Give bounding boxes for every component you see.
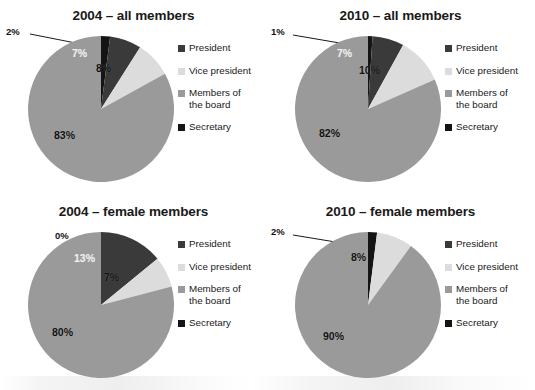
chart-title: 2004 – female members <box>0 204 267 219</box>
legend-item-secretary: Secretary <box>178 121 266 133</box>
callout-secretary-value: 1% <box>271 26 285 37</box>
legend-item-vice-president: Vice president <box>445 65 533 77</box>
pie-chart: 8% 90% <box>293 230 443 380</box>
legend-swatch-president <box>445 241 452 248</box>
legend-label-president: President <box>456 238 497 250</box>
callout-secretary: 2% <box>6 26 20 37</box>
legend-swatch-vice-president <box>445 68 452 75</box>
legend-swatch-board <box>178 90 185 97</box>
callout-secretary-value: 2% <box>6 26 20 37</box>
legend-label-president: President <box>189 238 230 250</box>
legend-item-president: President <box>445 238 533 250</box>
legend-item-secretary: Secretary <box>178 317 266 329</box>
callout-secretary: 2% <box>271 226 285 237</box>
legend-item-board: Members of the board <box>445 283 533 306</box>
legend-swatch-president <box>178 241 185 248</box>
legend-swatch-board <box>445 90 452 97</box>
chart-panel-2010-all: 2010 – all members 1% 7% 10% 82% <box>267 0 534 195</box>
legend-label-board: Members of the board <box>189 283 241 306</box>
slice-label-board: 83% <box>54 129 75 141</box>
legend-swatch-president <box>178 45 185 52</box>
pie-chart: 7% 8% 83% <box>26 34 176 184</box>
legend-label-secretary: Secretary <box>189 317 231 329</box>
slice-label-president: 13% <box>74 252 95 264</box>
chart-panel-2004-all: 2004 – all members 2% 7% <box>0 0 267 195</box>
legend-label-vice-president: Vice president <box>189 65 251 77</box>
legend-label-secretary: Secretary <box>456 317 498 329</box>
legend-label-vice-president: Vice president <box>456 261 518 273</box>
legend-label-secretary: Secretary <box>189 121 231 133</box>
legend-swatch-board <box>445 286 452 293</box>
chart-panel-2010-female: 2010 – female members 2% 8% 90% Presid <box>267 196 534 390</box>
legend-label-board: Members of the board <box>456 87 508 110</box>
legend-label-president: President <box>189 42 230 54</box>
legend-item-vice-president: Vice president <box>178 261 266 273</box>
pie-chart: 13% 7% 80% <box>26 230 176 380</box>
legend-swatch-secretary <box>178 320 185 327</box>
legend-swatch-vice-president <box>178 264 185 271</box>
legend-item-president: President <box>178 238 266 250</box>
slice-label-vice-president: 8% <box>351 251 366 263</box>
legend-swatch-vice-president <box>178 68 185 75</box>
legend-swatch-secretary <box>445 320 452 327</box>
legend-label-president: President <box>456 42 497 54</box>
pie-svg <box>26 230 176 380</box>
legend-label-board: Members of the board <box>189 87 241 110</box>
slice-label-board: 82% <box>319 127 340 139</box>
slice-label-board: 80% <box>52 326 73 338</box>
chart-title: 2010 – female members <box>267 204 534 219</box>
legend-item-secretary: Secretary <box>445 121 533 133</box>
legend-item-board: Members of the board <box>178 87 266 110</box>
legend-label-vice-president: Vice president <box>456 65 518 77</box>
legend-label-secretary: Secretary <box>456 121 498 133</box>
legend: President Vice president Members of the … <box>445 42 533 133</box>
slice-label-president: 7% <box>337 47 352 59</box>
slice-label-vice-president: 10% <box>359 64 380 76</box>
chart-panel-2004-female: 2004 – female members 0% 13% 7% 80% Pres… <box>0 196 267 390</box>
legend-item-vice-president: Vice president <box>445 261 533 273</box>
callout-secretary: 1% <box>271 26 285 37</box>
legend-item-board: Members of the board <box>445 87 533 110</box>
legend-item-president: President <box>178 42 266 54</box>
pie-chart: 7% 10% 82% <box>293 34 443 184</box>
legend-swatch-board <box>178 286 185 293</box>
legend-item-board: Members of the board <box>178 283 266 306</box>
legend-label-vice-president: Vice president <box>189 261 251 273</box>
legend: President Vice president Members of the … <box>178 238 266 329</box>
callout-secretary-value: 2% <box>271 226 285 237</box>
chart-title: 2010 – all members <box>267 8 534 23</box>
slice-label-vice-president: 7% <box>104 271 119 283</box>
pie-svg <box>26 34 176 184</box>
legend-swatch-secretary <box>445 124 452 131</box>
legend: President Vice president Members of the … <box>445 238 533 329</box>
slice-label-board: 90% <box>323 330 344 342</box>
chart-title: 2004 – all members <box>0 8 267 23</box>
figure-sheet: 2004 – all members 2% 7% <box>0 0 535 390</box>
legend-swatch-president <box>445 45 452 52</box>
slice-label-president: 7% <box>72 47 87 59</box>
legend-label-board: Members of the board <box>456 283 508 306</box>
legend-item-vice-president: Vice president <box>178 65 266 77</box>
pie-svg <box>293 34 443 184</box>
slice-label-vice-president: 8% <box>96 62 111 74</box>
legend-item-secretary: Secretary <box>445 317 533 329</box>
pie-svg <box>293 230 443 380</box>
legend-item-president: President <box>445 42 533 54</box>
legend-swatch-secretary <box>178 124 185 131</box>
legend-swatch-vice-president <box>445 264 452 271</box>
legend: President Vice president Members of the … <box>178 42 266 133</box>
